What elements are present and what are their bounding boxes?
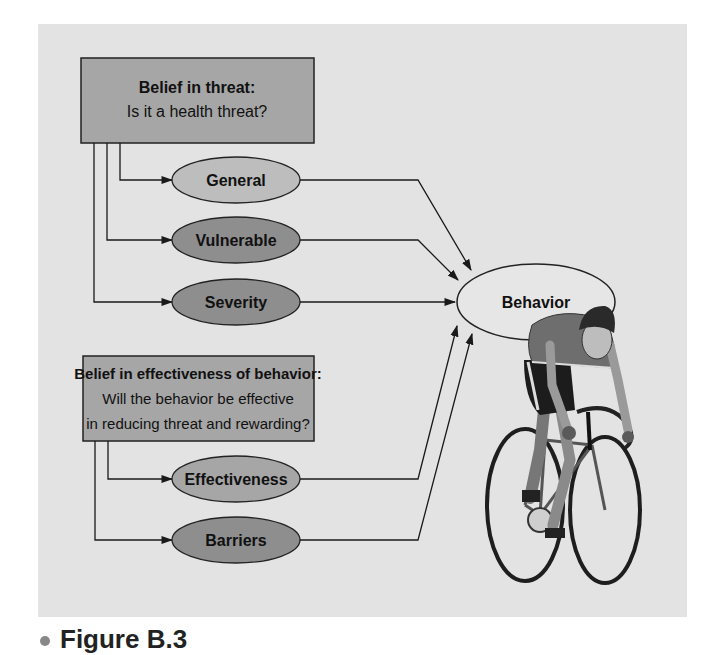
factor-barriers-label: Barriers bbox=[205, 532, 266, 549]
factor-barriers: Barriers bbox=[172, 517, 300, 563]
factor-vulnerable: Vulnerable bbox=[172, 217, 300, 263]
effectiveness-box-line2: Will the behavior be effective bbox=[102, 390, 294, 407]
factor-general: General bbox=[172, 157, 300, 203]
cyclist-illustration bbox=[487, 306, 640, 583]
effectiveness-connectors bbox=[95, 441, 172, 540]
threat-to-behavior-arrows bbox=[300, 180, 471, 302]
caption-bullet-icon bbox=[40, 636, 50, 646]
factor-severity-label: Severity bbox=[205, 294, 267, 311]
effectiveness-box-title: Belief in effectiveness of behavior: bbox=[74, 365, 322, 382]
effectiveness-to-behavior-arrows bbox=[300, 326, 472, 540]
effectiveness-box: Belief in effectiveness of behavior: Wil… bbox=[74, 356, 322, 441]
caption-label: Figure B.3 bbox=[60, 624, 187, 654]
threat-connectors bbox=[94, 143, 172, 302]
factor-severity: Severity bbox=[172, 279, 300, 325]
factor-effectiveness: Effectiveness bbox=[172, 456, 300, 502]
effectiveness-box-line3: in reducing threat and rewarding? bbox=[86, 415, 309, 432]
factor-general-label: General bbox=[206, 172, 266, 189]
factor-vulnerable-label: Vulnerable bbox=[195, 232, 276, 249]
figure-caption: Figure B.3 bbox=[40, 624, 187, 655]
factor-effectiveness-label: Effectiveness bbox=[184, 471, 287, 488]
threat-box-title: Belief in threat: bbox=[139, 79, 255, 96]
behavior-label: Behavior bbox=[502, 294, 570, 311]
threat-box: Belief in threat: Is it a health threat? bbox=[81, 58, 314, 143]
threat-box-subtitle: Is it a health threat? bbox=[127, 103, 268, 120]
